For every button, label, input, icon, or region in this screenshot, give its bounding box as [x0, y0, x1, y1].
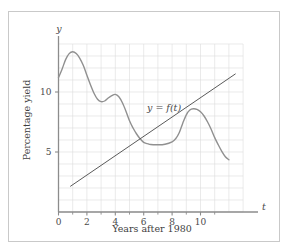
x-tick-label: 0 — [56, 217, 62, 227]
x-axis-title: Years after 1980 — [111, 223, 192, 234]
chart-svg: 0246810510 y t Years after 1980 Percenta… — [0, 0, 288, 250]
axis-tick-labels: 0246810510 — [40, 87, 206, 227]
x-tick-label: 2 — [84, 217, 90, 227]
grid-lines — [59, 44, 244, 212]
data-series — [59, 52, 236, 186]
curve-equation-label: y = f(t) — [146, 102, 181, 113]
y-tick-label: 10 — [40, 87, 52, 97]
y-tick-label: 5 — [46, 147, 52, 157]
y-axis-variable-label: y — [55, 23, 62, 34]
chart-plot: 0246810510 y t Years after 1980 Percenta… — [0, 0, 288, 250]
x-axis-variable-label: t — [262, 201, 266, 212]
axes — [59, 36, 259, 212]
x-tick-label: 10 — [195, 217, 207, 227]
y-axis-title: Percentage yield — [21, 80, 32, 161]
axis-ticks — [55, 92, 215, 216]
secant-line-path — [71, 74, 236, 186]
